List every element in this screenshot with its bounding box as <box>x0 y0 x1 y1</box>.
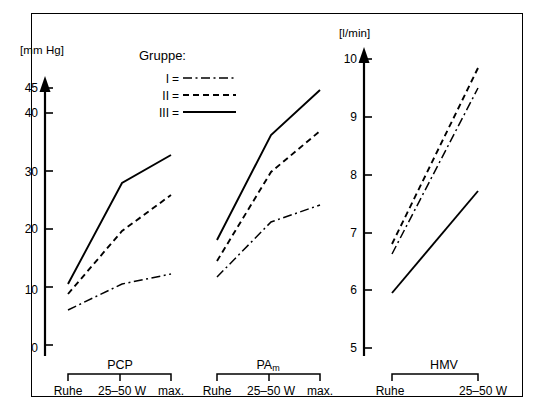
plot-canvas <box>0 0 534 416</box>
pcp-series-I <box>68 274 171 310</box>
hmv-series-I <box>392 88 478 254</box>
pcp-series-III <box>68 155 171 284</box>
right-axis-arrowhead <box>359 47 370 63</box>
left-axis-line <box>40 76 51 356</box>
hmv-series-III <box>392 191 478 293</box>
pcp-axis-bracket <box>68 374 171 381</box>
right-axis-ticks <box>364 59 372 348</box>
hmv-series-II <box>392 68 478 244</box>
left-axis-arrowhead <box>40 76 51 92</box>
pam-axis-bracket <box>217 374 320 381</box>
right-axis-line <box>359 47 370 356</box>
figure-root: [mm Hg] 45 40 30 20 10 0 [l/min] 10 9 8 … <box>0 0 534 416</box>
pam-series-I <box>217 205 320 277</box>
pam-series-II <box>217 131 320 261</box>
left-axis-ticks <box>45 88 53 345</box>
pcp-series-II <box>68 195 171 294</box>
hmv-axis-bracket <box>392 374 478 381</box>
